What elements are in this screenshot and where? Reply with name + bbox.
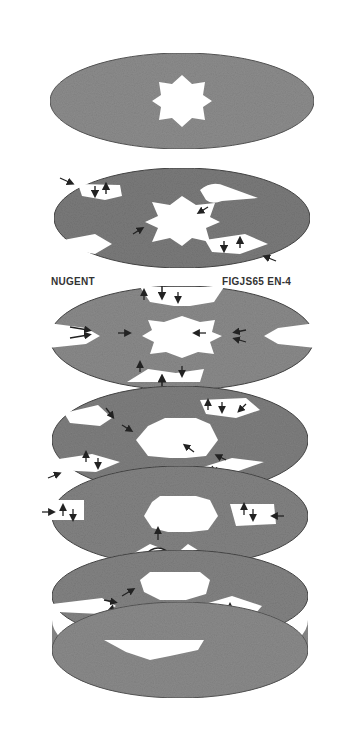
disk-3 <box>48 286 316 390</box>
disk-7 <box>52 602 308 698</box>
stacked-disk-diagram: NUGENT FIGJS65 EN-4 <box>0 0 348 731</box>
disk-2 <box>54 168 310 268</box>
disk-1 <box>50 53 314 149</box>
label-figure-number: FIGJS65 EN-4 <box>222 276 291 287</box>
label-nugent: NUGENT <box>51 276 95 287</box>
